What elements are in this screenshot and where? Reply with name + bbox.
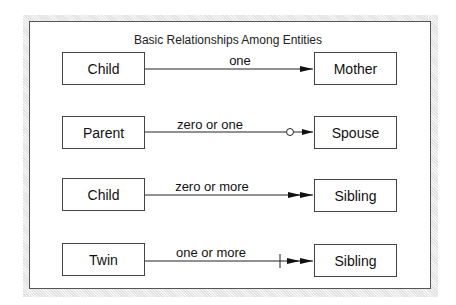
entity-sibling: Sibling xyxy=(314,179,397,212)
entity-mother: Mother xyxy=(314,52,397,85)
entity-twin: Twin xyxy=(62,243,145,276)
relationship-label-zero-or-more: zero or more xyxy=(162,179,262,194)
relationship-label-one: one xyxy=(200,53,280,68)
entity-child-2: Child xyxy=(62,178,145,211)
entity-child: Child xyxy=(62,52,145,85)
arrowhead-icon xyxy=(302,129,313,135)
entity-parent: Parent xyxy=(62,116,145,149)
arrowhead-icon xyxy=(300,66,313,72)
arrowhead-icon xyxy=(287,258,300,264)
entity-spouse: Spouse xyxy=(314,116,397,149)
arrowhead-icon xyxy=(300,258,313,264)
arrowhead-icon xyxy=(300,192,313,198)
arrowhead-icon xyxy=(288,192,301,198)
relationship-label-one-or-more: one or more xyxy=(166,245,256,260)
zero-circle-icon xyxy=(287,129,294,136)
entity-sibling-2: Sibling xyxy=(314,244,397,277)
relationship-label-zero-or-one: zero or one xyxy=(165,117,255,132)
